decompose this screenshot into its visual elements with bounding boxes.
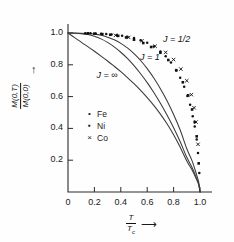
data-point-square [167,59,170,62]
x-axis-arrow-icon: ⟶ [141,219,157,230]
data-point-dot [183,85,186,88]
data-point-dot [191,115,194,118]
curve-label: J = ∞ [96,71,117,80]
data-point-cross [196,143,199,146]
data-point-cross [172,58,175,61]
legend-cross-icon: × [86,134,93,142]
legend-dot-icon: • [86,110,93,118]
data-point-square [101,33,104,36]
data-point-dot [105,33,108,36]
y-axis-numerator: M(0,T) [11,83,19,109]
legend-item: ▪Ni [86,121,108,131]
data-point-cross [192,106,195,109]
legend-label: Fe [97,109,107,119]
y-tick-label: 0.2 [41,155,63,164]
legend-item: •Fe [86,109,108,119]
data-point-square [150,46,153,49]
data-point-dot [164,55,167,58]
data-point-square [87,32,90,35]
legend: •Fe▪Ni×Co [86,109,108,143]
legend-label: Co [97,133,108,143]
x-tick-label: 1.0 [193,198,207,207]
data-point-square [175,69,178,72]
y-tick-label: 0.8 [41,60,63,69]
data-point-dot [84,32,87,35]
curve-label: J = 1/2 [163,35,190,44]
data-point-dot [189,104,192,107]
x-tick-label: 0 [61,198,75,207]
data-point-dot [193,125,196,128]
y-axis-fraction: M(0,T) M(0,0) [11,83,31,109]
x-tick-label: 0.6 [140,198,154,207]
magnetization-chart-figure: 00.20.40.60.81.0 0.20.40.60.81.0 J = 1/2… [0,0,234,242]
legend-label: Ni [97,121,105,131]
data-point-cross [179,67,182,70]
x-tick-label: 0.2 [87,198,101,207]
data-point-dot [89,32,92,35]
y-axis-arrow-icon: ↑ [31,64,37,75]
y-axis-denominator: M(0,0) [23,83,31,108]
data-point-dot [198,172,201,175]
x-tick-label: 0.8 [167,198,181,207]
data-point-dot [121,34,124,37]
y-tick-label: 0.6 [41,92,63,101]
data-point-dot [146,42,149,45]
y-tick-label: 0.4 [41,123,63,132]
data-point-cross [185,79,188,82]
x-axis-denominator: Tc [126,225,136,235]
x-axis-fraction: T Tc [126,214,136,235]
legend-item: ×Co [86,133,108,143]
data-point-dot [170,61,173,64]
data-point-square [93,32,96,35]
x-axis-numerator: T [128,214,135,222]
x-axis-title: T Tc ⟶ [126,214,157,235]
legend-square-icon: ▪ [86,122,93,130]
data-point-dot [179,77,182,80]
data-point-square [197,162,200,165]
data-point-dot [197,152,200,155]
data-point-dot [195,138,198,141]
data-point-square [109,33,112,36]
curve-label: J = 1 [140,53,160,62]
data-point-square [182,81,185,84]
data-point-cross [164,51,167,54]
data-point-square [125,36,128,39]
data-point-square [195,135,198,138]
x-tick-label: 0.4 [114,198,128,207]
y-tick-label: 1.0 [41,28,63,37]
data-point-cross [190,93,193,96]
data-point-square [133,38,136,41]
data-point-square [187,94,190,97]
